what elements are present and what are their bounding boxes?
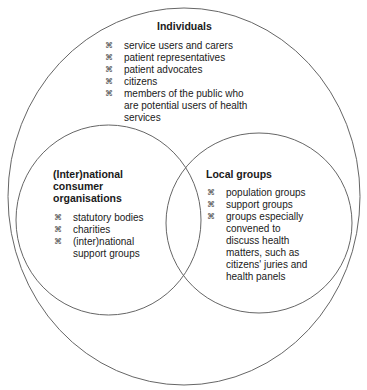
local-groups-title: Local groups <box>206 168 272 180</box>
title-line: (Inter)national <box>53 168 123 180</box>
list-item: citizens <box>124 76 157 88</box>
item-text: services <box>124 112 247 124</box>
item-text: convened to <box>226 223 307 235</box>
list-item: population groups <box>226 187 306 199</box>
bullet-icon: ⌘ <box>207 211 215 223</box>
item-text: citizens <box>124 76 157 87</box>
item-text: patient advocates <box>124 64 202 75</box>
list-item: service users and carers <box>124 40 233 52</box>
bullet-icon: ⌘ <box>54 212 62 224</box>
title-line: consumer <box>53 180 123 192</box>
list-item: groups especially convened to discuss he… <box>226 211 307 283</box>
bullet-icon: ⌘ <box>105 40 113 52</box>
bullet-icon: ⌘ <box>105 64 113 76</box>
title-line: Local groups <box>206 168 272 180</box>
item-text: support groups <box>73 248 140 260</box>
item-text: service users and carers <box>124 40 233 51</box>
item-text: health panels <box>226 271 307 283</box>
item-text: matters, such as <box>226 247 307 259</box>
bullet-icon: ⌘ <box>105 88 113 100</box>
item-text: population groups <box>226 187 306 198</box>
bullet-icon: ⌘ <box>207 187 215 199</box>
item-text: statutory bodies <box>73 212 144 223</box>
list-item: charities <box>73 224 110 236</box>
item-text: are potential users of health <box>124 100 247 112</box>
bullet-icon: ⌘ <box>105 52 113 64</box>
list-item: (inter)national support groups <box>73 236 140 260</box>
item-text: patient representatives <box>124 52 225 63</box>
bullet-icon: ⌘ <box>54 236 62 248</box>
title-line: organisations <box>53 192 123 204</box>
item-text: groups especially <box>226 211 307 223</box>
list-item: patient advocates <box>124 64 202 76</box>
list-item: statutory bodies <box>73 212 144 224</box>
item-text: charities <box>73 224 110 235</box>
item-text: (inter)national <box>73 236 140 248</box>
bullet-icon: ⌘ <box>105 76 113 88</box>
item-text: citizens' juries and <box>226 259 307 271</box>
bullet-icon: ⌘ <box>207 199 215 211</box>
list-item: patient representatives <box>124 52 225 64</box>
individuals-title: Individuals <box>157 20 212 32</box>
bullet-icon: ⌘ <box>54 224 62 236</box>
item-text: discuss health <box>226 235 307 247</box>
item-text: support groups <box>226 199 293 210</box>
list-item: members of the public who are potential … <box>124 88 247 124</box>
international-organisations-title: (Inter)national consumer organisations <box>53 168 123 204</box>
list-item: support groups <box>226 199 293 211</box>
item-text: members of the public who <box>124 88 247 100</box>
